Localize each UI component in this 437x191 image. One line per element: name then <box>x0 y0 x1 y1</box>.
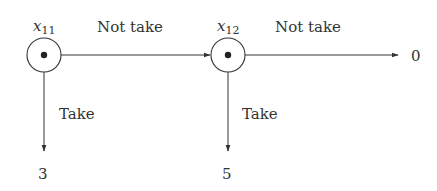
node-dot <box>225 52 231 58</box>
node-dot <box>41 52 47 58</box>
payoff-5: 5 <box>222 165 232 183</box>
edge-label-not-take-1: Not take <box>97 18 163 36</box>
edge-label-take-2: Take <box>242 105 278 123</box>
decision-tree-diagram: x11 x12 Not take Not take 0 Take 3 Take … <box>0 0 437 191</box>
payoff-0: 0 <box>411 47 421 65</box>
node-x11 <box>27 38 61 72</box>
node-label-x12: x12 <box>217 17 239 37</box>
node-label-x11: x11 <box>33 17 55 37</box>
edge-label-not-take-2: Not take <box>275 18 341 36</box>
edge-label-take-1: Take <box>59 105 95 123</box>
node-x12 <box>211 38 245 72</box>
payoff-3: 3 <box>38 165 48 183</box>
